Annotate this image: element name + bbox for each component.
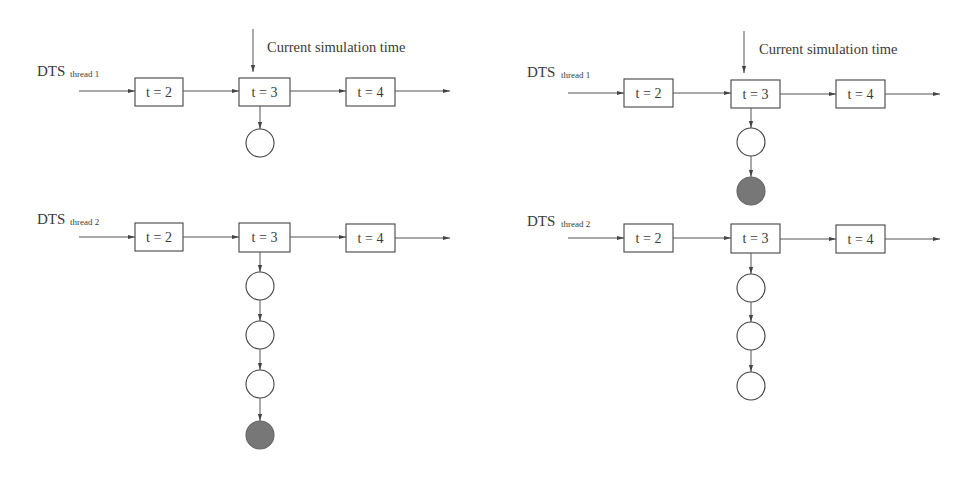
thread-row-1: DTS thread 1 t = 2 t = 3 t = 4 [527,64,940,205]
thread-row-2: DTS thread 2 t = 2 t = 3 t = 4 [527,213,940,400]
thread-label: DTS [527,213,555,229]
time-step-label: t = 2 [636,86,662,101]
time-step-label: t = 3 [743,231,769,246]
thread-subscript: thread 2 [70,217,99,227]
thread-row-1: DTS thread 1 t = 2 t = 3 t = 4 [37,63,450,157]
event-node-empty [246,321,274,349]
current-time-caption: Current simulation time [759,41,898,57]
thread-subscript: thread 1 [561,70,590,80]
time-step-label: t = 3 [252,230,278,245]
event-node-empty [246,129,274,157]
time-step-label: t = 4 [358,85,384,100]
thread-label: DTS [37,63,65,79]
event-node-empty [737,274,765,302]
time-step-label: t = 4 [848,232,874,247]
event-node-filled [737,177,765,205]
thread-label: DTS [527,64,555,80]
event-node-empty [246,370,274,398]
panel-left: Current simulation time DTS thread 1 t =… [37,29,450,449]
time-step-label: t = 3 [743,87,769,102]
event-node-empty [246,272,274,300]
time-step-label: t = 2 [146,85,172,100]
time-step-label: t = 2 [636,231,662,246]
time-step-label: t = 3 [252,85,278,100]
event-node-empty [737,322,765,350]
thread-row-2: DTS thread 2 t = 2 t = 3 t = 4 [37,211,450,449]
event-node-empty [737,128,765,156]
time-step-label: t = 4 [848,87,874,102]
time-step-label: t = 4 [358,231,384,246]
thread-subscript: thread 1 [70,69,99,79]
dts-diagram: Current simulation time DTS thread 1 t =… [0,0,969,478]
panel-right: Current simulation time DTS thread 1 t =… [527,31,940,400]
thread-subscript: thread 2 [561,219,590,229]
thread-label: DTS [37,211,65,227]
event-node-filled [246,421,274,449]
current-time-marker: Current simulation time [744,31,898,73]
time-step-label: t = 2 [146,230,172,245]
current-time-caption: Current simulation time [267,39,406,55]
current-time-marker: Current simulation time [253,29,406,72]
event-node-empty [737,372,765,400]
